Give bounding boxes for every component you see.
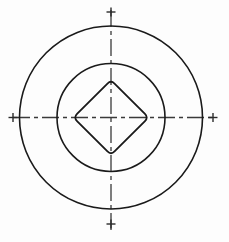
drawing-canvas bbox=[0, 0, 229, 242]
tick-right bbox=[209, 113, 218, 122]
tick-bottom bbox=[107, 220, 116, 229]
tick-left bbox=[9, 113, 18, 122]
tick-top bbox=[107, 8, 116, 17]
technical-drawing-svg bbox=[0, 0, 229, 242]
